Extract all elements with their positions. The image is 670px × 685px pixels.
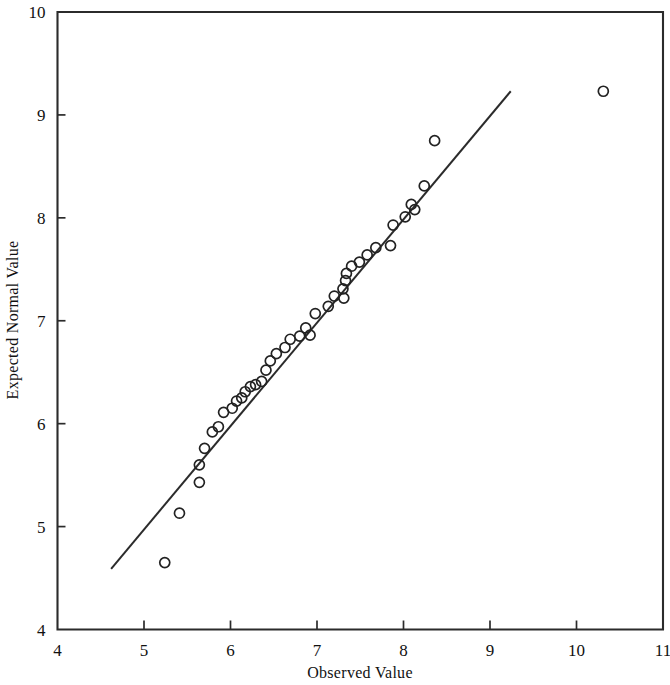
y-tick-label: 10 xyxy=(29,3,46,22)
data-point-marker xyxy=(285,334,295,344)
data-point-marker xyxy=(419,181,429,191)
x-tick-label: 7 xyxy=(313,641,322,660)
x-tick-label: 5 xyxy=(140,641,149,660)
y-tick-label: 5 xyxy=(37,518,46,537)
y-tick-label: 8 xyxy=(37,209,46,228)
data-point-marker xyxy=(174,508,184,518)
x-axis-title: Observed Value xyxy=(307,664,413,681)
y-tick-label: 7 xyxy=(37,312,46,331)
x-tick-label: 9 xyxy=(486,641,495,660)
data-point-marker xyxy=(362,250,372,260)
y-tick-label: 9 xyxy=(37,106,46,125)
data-point-marker xyxy=(329,291,339,301)
plot-canvas: 45678910 4567891011 Observed Value Expec… xyxy=(0,0,670,685)
axes-frame xyxy=(58,12,664,630)
y-axis-title: Expected Normal Value xyxy=(4,241,22,400)
data-point-marker xyxy=(257,376,267,386)
y-axis-tick-group: 45678910 xyxy=(29,3,66,640)
x-axis-tick-group: 4567891011 xyxy=(53,621,670,660)
data-point-marker xyxy=(388,220,398,230)
x-tick-label: 8 xyxy=(399,641,408,660)
data-point-marker xyxy=(341,268,351,278)
data-point-marker xyxy=(598,86,608,96)
normal-probability-plot-figure: 45678910 4567891011 Observed Value Expec… xyxy=(0,0,670,685)
x-tick-label: 10 xyxy=(568,641,585,660)
x-tick-label: 6 xyxy=(226,641,235,660)
y-tick-label: 6 xyxy=(37,415,46,434)
y-tick-label: 4 xyxy=(37,621,46,640)
axis-frame-path xyxy=(58,12,664,630)
data-point-marker xyxy=(194,477,204,487)
data-point-marker xyxy=(386,241,396,251)
data-point-marker xyxy=(200,443,210,453)
data-point-marker xyxy=(310,309,320,319)
x-tick-label: 11 xyxy=(655,641,670,660)
data-point-marker xyxy=(430,136,440,146)
x-tick-label: 4 xyxy=(53,641,62,660)
scatter-point-group xyxy=(160,86,609,567)
data-point-marker xyxy=(160,558,170,568)
